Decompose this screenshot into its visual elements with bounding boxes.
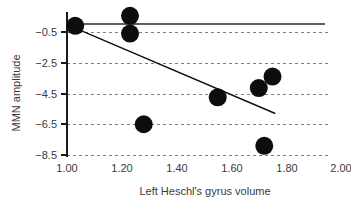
- x-tick-label-4: 1.80: [276, 162, 297, 174]
- gridlines: [67, 32, 330, 155]
- data-point: [66, 17, 84, 35]
- y-tick-label-3: −6.5: [35, 118, 57, 130]
- y-tick-marks: [61, 32, 67, 155]
- x-tick-label-1: 1.20: [111, 162, 132, 174]
- y-tick-label-2: −4.5: [35, 88, 57, 100]
- data-points: [66, 7, 281, 155]
- y-tick-label-0: −0.5: [35, 26, 57, 38]
- y-axis-title: MMN amplitude: [10, 54, 22, 131]
- scatter-plot: −0.5 −2.5 −4.5 −6.5 −8.5 MMN amplitude 1…: [0, 0, 351, 205]
- x-tick-label-3: 1.60: [221, 162, 242, 174]
- data-point: [121, 7, 139, 25]
- x-tick-label-5: 2.00: [330, 162, 351, 174]
- data-point: [255, 137, 273, 155]
- regression-line: [75, 28, 275, 113]
- y-tick-label-1: −2.5: [35, 57, 57, 69]
- data-point: [250, 79, 268, 97]
- x-tick-label-0: 1.00: [56, 162, 77, 174]
- data-point: [209, 88, 227, 106]
- x-axis-title: Left Heschl's gyrus volume: [139, 185, 270, 197]
- x-tick-label-2: 1.40: [166, 162, 187, 174]
- chart-figure: −0.5 −2.5 −4.5 −6.5 −8.5 MMN amplitude 1…: [0, 0, 351, 205]
- data-point: [121, 25, 139, 43]
- data-point: [135, 115, 153, 133]
- y-tick-label-4: −8.5: [35, 149, 57, 161]
- data-point: [264, 68, 282, 86]
